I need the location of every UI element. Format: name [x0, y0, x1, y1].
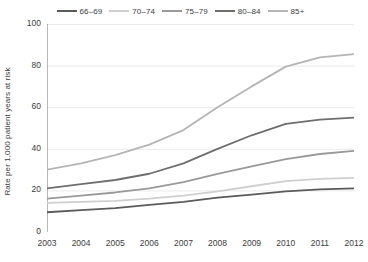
y-tick-label: 20	[15, 185, 41, 194]
y-axis-tick-labels: 020406080100	[11, 0, 41, 262]
legend-label: 80–84	[238, 7, 261, 16]
x-axis-tick-labels: 2003200420052006200720082009201020112012	[47, 238, 354, 252]
legend-item-7579[interactable]: 75–79	[162, 7, 208, 16]
legend-swatch-icon	[57, 10, 77, 12]
legend-swatch-icon	[268, 10, 288, 12]
legend-swatch-icon	[109, 10, 129, 12]
legend-label: 66–69	[80, 7, 103, 16]
legend-swatch-icon	[215, 10, 235, 12]
legend-item-7074[interactable]: 70–74	[109, 7, 155, 16]
plot-area	[47, 24, 354, 232]
y-tick-label: 80	[15, 61, 41, 70]
series-line-85+	[47, 54, 354, 169]
legend-label: 85+	[291, 7, 305, 16]
series-line-6669	[47, 188, 354, 212]
plot-svg	[47, 24, 354, 232]
y-tick-label: 60	[15, 102, 41, 111]
legend-label: 70–74	[132, 7, 155, 16]
legend-item-8084[interactable]: 80–84	[215, 7, 261, 16]
x-tick-label: 2012	[334, 238, 368, 248]
y-tick-label: 40	[15, 144, 41, 153]
legend-swatch-icon	[162, 10, 182, 12]
y-tick-label: 0	[15, 227, 41, 236]
legend-item-85+[interactable]: 85+	[268, 7, 305, 16]
legend-item-6669[interactable]: 66–69	[57, 7, 103, 16]
legend-label: 75–79	[185, 7, 208, 16]
series-line-7579	[47, 151, 354, 199]
y-tick-label: 100	[15, 19, 41, 28]
chart-legend: 66–6970–7475–7980–8485+	[0, 3, 361, 19]
